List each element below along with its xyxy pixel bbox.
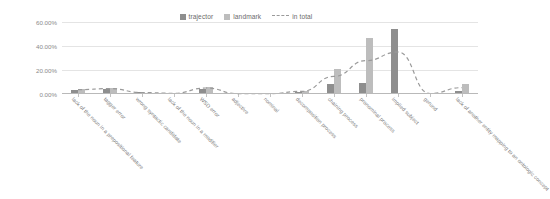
x-axis-label: lack of another entity mapping to an ont… — [455, 96, 550, 192]
legend-dash-in-total — [272, 15, 289, 16]
legend-item-trajector: trajector — [180, 13, 214, 20]
x-axis-label: chaining process — [327, 96, 360, 129]
y-axis-tick-label: 0.00% — [39, 91, 57, 98]
x-axis-label: adjective — [231, 96, 250, 115]
legend-item-landmark: landmark — [224, 13, 261, 20]
legend-label-trajector: trajector — [189, 13, 214, 20]
x-axis-label: WSD error — [199, 96, 221, 118]
in-total-line — [62, 22, 478, 94]
x-axis-label: lack of the noun in a prepositional feat… — [71, 96, 145, 170]
y-axis-tick-label: 20.00% — [36, 67, 57, 74]
legend-label-landmark: landmark — [233, 13, 261, 20]
x-axis-label: implied subject — [391, 96, 421, 126]
chart-legend: trajector landmark in total — [0, 13, 492, 20]
plot-area: 0.00%20.00%40.00%60.00% — [62, 22, 478, 94]
x-axis-label: gerund — [423, 96, 439, 112]
legend-item-in-total: in total — [272, 13, 312, 20]
y-axis-tick-label: 60.00% — [36, 19, 57, 26]
x-axis-baseline — [62, 93, 478, 94]
x-axis-labels: lack of the noun in a prepositional feat… — [62, 96, 478, 196]
x-axis-label: tagger error — [103, 96, 127, 120]
x-axis-label: pronominal process — [359, 96, 397, 134]
y-axis-tick-label: 40.00% — [36, 43, 57, 50]
in-total-trendline — [78, 52, 462, 94]
legend-label-in-total: in total — [292, 13, 312, 20]
legend-swatch-landmark — [224, 14, 230, 20]
x-axis-label: nominal — [263, 96, 281, 114]
legend-swatch-trajector — [180, 14, 186, 20]
